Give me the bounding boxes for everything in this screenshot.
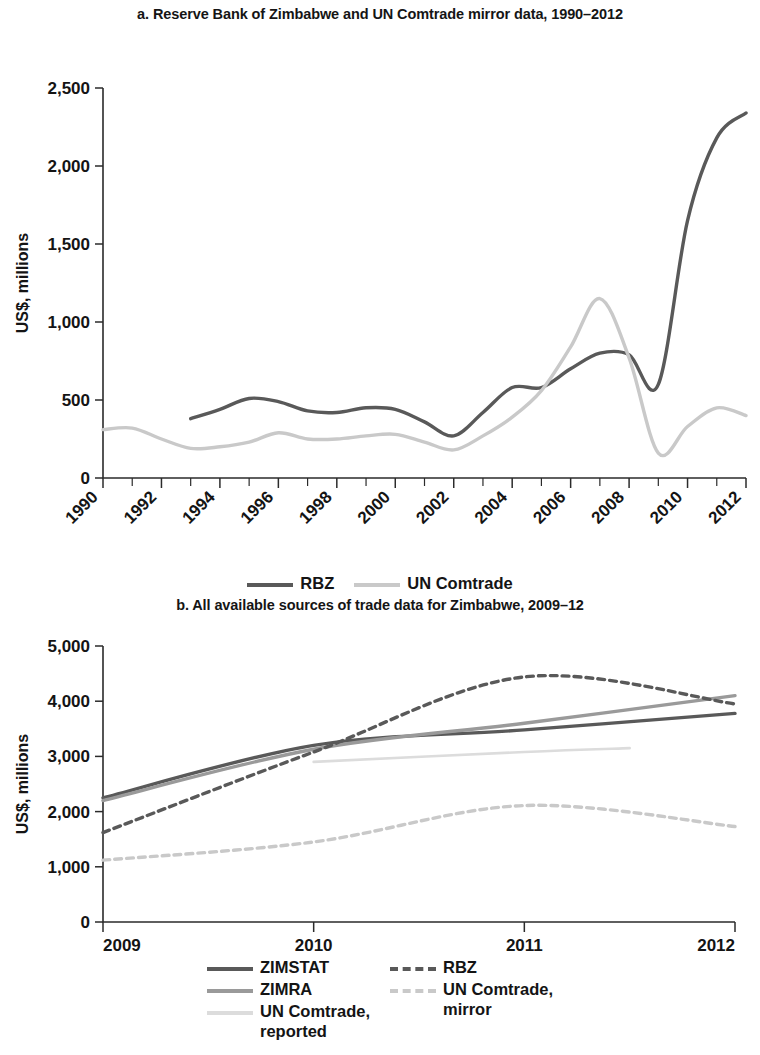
panel-a-ytick-label: 2,000 — [47, 157, 90, 176]
panel-b-series-zimra — [103, 696, 735, 801]
panel-b-series-rbz — [103, 676, 735, 833]
legend-item[interactable]: RBZ — [390, 957, 553, 977]
panel-a: a. Reserve Bank of Zimbabwe and UN Comtr… — [0, 0, 760, 593]
panel-a-xtick-label: 2000 — [354, 487, 394, 527]
panel-a-xtick-label: 1998 — [295, 487, 335, 527]
legend-label: UN Comtrade, reported — [260, 1001, 370, 1041]
legend-swatch-icon — [207, 989, 253, 993]
legend-item[interactable]: UN Comtrade — [354, 573, 512, 593]
legend-label: RBZ — [300, 573, 334, 593]
panel-b-ytick-label: 5,000 — [47, 637, 90, 656]
legend-label: RBZ — [443, 957, 477, 977]
legend-item[interactable]: UN Comtrade, reported — [207, 1001, 370, 1041]
panel-b-svg: 01,0002,0003,0004,0005,00020092010201120… — [0, 613, 760, 953]
panel-b-plot: 01,0002,0003,0004,0005,00020092010201120… — [0, 613, 760, 953]
panel-a-xtick-label: 2002 — [412, 487, 452, 527]
panel-a-title: a. Reserve Bank of Zimbabwe and UN Comtr… — [0, 0, 760, 22]
panel-b-legend-col-left: ZIMSTATZIMRAUN Comtrade, reported — [197, 957, 380, 1043]
legend-swatch-icon — [390, 989, 436, 993]
panel-b-series-zimstat — [103, 713, 735, 797]
panel-b-axes — [103, 646, 735, 922]
panel-a-series-rbz — [191, 113, 746, 436]
legend-swatch-icon — [390, 967, 436, 971]
panel-b-xtick-label: 2011 — [506, 936, 543, 953]
panel-b-ytick-label: 3,000 — [47, 747, 90, 766]
panel-a-axes — [103, 88, 746, 478]
legend-swatch-icon — [207, 967, 253, 971]
legend-swatch-icon — [354, 583, 400, 587]
panel-a-xtick-label: 2012 — [705, 487, 745, 527]
panel-a-svg: 05001,0001,5002,0002,5001990199219941996… — [0, 22, 760, 567]
panel-a-ytick-label: 500 — [62, 391, 90, 410]
panel-b-ylabel: US$, millions — [14, 734, 31, 835]
panel-a-series-un-comtrade — [103, 299, 746, 456]
panel-a-ytick-label: 0 — [81, 469, 90, 488]
panel-b-xtick-label: 2010 — [295, 936, 333, 953]
panel-a-plot: 05001,0001,5002,0002,5001990199219941996… — [0, 22, 760, 567]
legend-swatch-icon — [207, 1011, 253, 1015]
panel-b-series-un-comtrade-reported — [314, 748, 630, 762]
panel-b-legend: ZIMSTATZIMRAUN Comtrade, reported RBZUN … — [0, 957, 760, 1043]
panel-a-xtick-label: 1994 — [179, 487, 220, 528]
panel-a-legend: RBZUN Comtrade — [0, 573, 760, 593]
panel-a-ytick-label: 2,500 — [47, 79, 90, 98]
legend-item[interactable]: ZIMSTAT — [207, 957, 370, 977]
panel-a-xtick-label: 2010 — [646, 487, 686, 527]
panel-a-ylabel: US$, millions — [14, 233, 31, 334]
panel-b-legend-col-right: RBZUN Comtrade, mirror — [380, 957, 563, 1043]
panel-b-ytick-label: 1,000 — [47, 858, 90, 877]
panel-b-xtick-label: 2009 — [103, 936, 141, 953]
legend-label: UN Comtrade, mirror — [443, 979, 553, 1019]
legend-swatch-icon — [247, 583, 293, 587]
panel-a-xtick-label: 1990 — [62, 487, 102, 527]
panel-a-xtick-label: 2006 — [529, 487, 569, 527]
legend-label: UN Comtrade — [407, 573, 512, 593]
legend-label: ZIMRA — [260, 979, 312, 999]
legend-item[interactable]: RBZ — [247, 573, 334, 593]
panel-a-xtick-label: 2004 — [471, 487, 512, 528]
legend-label: ZIMSTAT — [260, 957, 329, 977]
panel-b: b. All available sources of trade data f… — [0, 593, 760, 1043]
legend-item[interactable]: ZIMRA — [207, 979, 370, 999]
panel-a-xtick-label: 2008 — [588, 487, 628, 527]
panel-b-ytick-label: 2,000 — [47, 803, 90, 822]
panel-b-series-un-comtrade-mirror — [103, 805, 735, 860]
panel-a-ytick-label: 1,000 — [47, 313, 90, 332]
panel-a-xtick-label: 1992 — [120, 487, 160, 527]
panel-a-ytick-label: 1,500 — [47, 235, 90, 254]
panel-b-xtick-label: 2012 — [697, 936, 735, 953]
panel-b-ytick-label: 4,000 — [47, 692, 90, 711]
panel-b-title: b. All available sources of trade data f… — [0, 593, 760, 613]
legend-item[interactable]: UN Comtrade, mirror — [390, 979, 553, 1019]
panel-a-xtick-label: 1996 — [237, 487, 277, 527]
panel-b-ytick-label: 0 — [81, 913, 90, 932]
